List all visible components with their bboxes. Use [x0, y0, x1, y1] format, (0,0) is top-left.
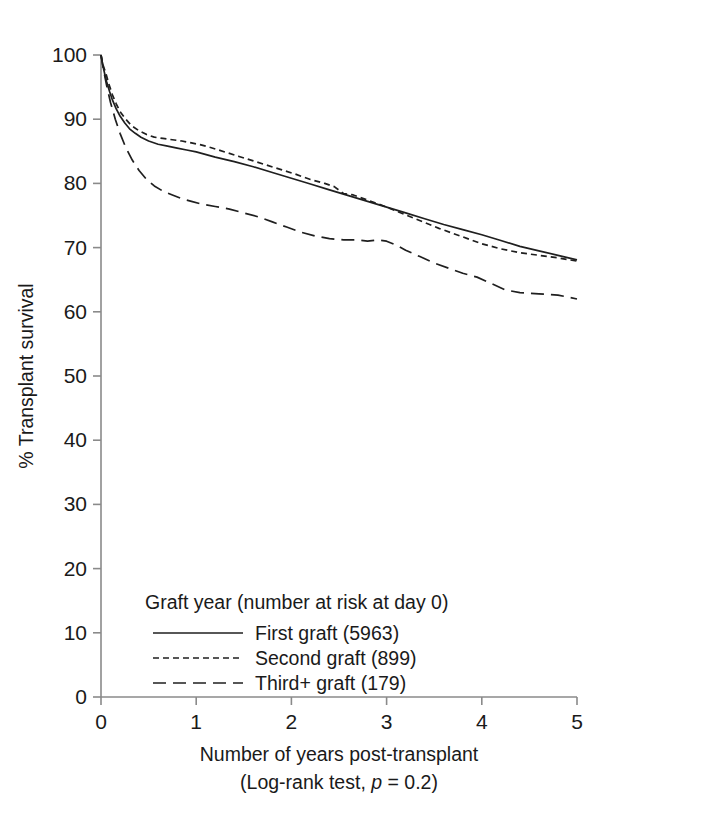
- y-axis-title: % Transplant survival: [15, 283, 37, 468]
- y-axis-ticks: 0102030405060708090100: [52, 43, 101, 708]
- y-tick-label: 30: [64, 492, 87, 515]
- series-line-first-graft: [101, 55, 577, 260]
- data-series-group: [101, 55, 577, 299]
- xaxis-sub-prefix: (Log-rank test,: [240, 771, 371, 793]
- x-tick-label: 2: [286, 710, 298, 733]
- x-axis-subtitle: (Log-rank test, p = 0.2): [240, 771, 438, 793]
- x-tick-label: 5: [571, 710, 583, 733]
- survival-chart-figure: 0102030405060708090100 012345 % Transpla…: [0, 0, 704, 822]
- y-tick-label: 40: [64, 428, 87, 451]
- y-tick-label: 70: [64, 236, 87, 259]
- xaxis-sub-suffix: = 0.2): [382, 771, 438, 793]
- legend: Graft year (number at risk at day 0) Fir…: [145, 591, 448, 694]
- x-axis-ticks: 012345: [95, 697, 583, 733]
- x-tick-label: 0: [95, 710, 107, 733]
- y-tick-label: 100: [52, 43, 87, 66]
- legend-label-second-graft: Second graft (899): [255, 647, 417, 669]
- legend-label-first-graft: First graft (5963): [255, 622, 399, 644]
- y-tick-label: 0: [75, 685, 87, 708]
- x-tick-label: 4: [476, 710, 488, 733]
- y-tick-label: 80: [64, 171, 87, 194]
- y-tick-label: 60: [64, 300, 87, 323]
- plot-canvas: 0102030405060708090100 012345 % Transpla…: [0, 0, 704, 822]
- y-tick-label: 90: [64, 107, 87, 130]
- x-tick-label: 1: [190, 710, 202, 733]
- series-line-second-graft: [101, 55, 577, 261]
- y-tick-label: 20: [64, 557, 87, 580]
- xaxis-sub-pvar: p: [370, 771, 382, 793]
- y-tick-label: 10: [64, 621, 87, 644]
- x-axis-title: Number of years post-transplant: [200, 743, 479, 765]
- legend-label-third-graft: Third+ graft (179): [255, 672, 406, 694]
- y-tick-label: 50: [64, 364, 87, 387]
- legend-title: Graft year (number at risk at day 0): [145, 591, 448, 613]
- x-tick-label: 3: [381, 710, 393, 733]
- series-line-third-graft: [101, 55, 577, 299]
